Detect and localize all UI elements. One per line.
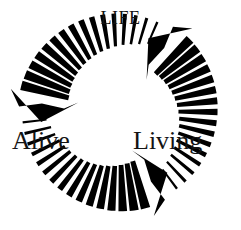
arrow-segment — [178, 109, 217, 115]
arrow-segment — [23, 119, 47, 124]
arrows-group — [11, 13, 218, 215]
node-label-life: Life — [0, 3, 241, 28]
node-label-alive: Alive — [12, 128, 70, 154]
life-cycle-diagram: Life Alive Living — [0, 0, 241, 230]
node-label-living: Living — [133, 128, 202, 154]
cycle-arrows-graphic — [0, 0, 241, 230]
arrow-life-to-alive — [11, 13, 159, 121]
arrow-segment — [179, 117, 217, 127]
arrow-alive-to-living — [147, 27, 218, 190]
